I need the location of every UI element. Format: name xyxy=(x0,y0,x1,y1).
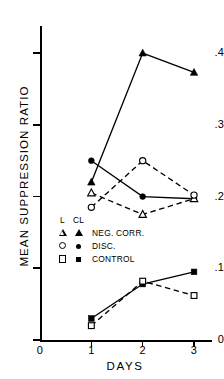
square-filled-icon xyxy=(76,257,82,263)
data-point-marker xyxy=(191,269,197,275)
data-point-marker xyxy=(88,158,94,164)
chart-legend: LCLNEG. CORR.DISC.CONTROL xyxy=(56,214,147,268)
data-point-marker xyxy=(140,194,146,200)
suppression-ratio-chart: 0.1.2.3.4 0123 MEAN SUPPRESSION RATIO DA… xyxy=(0,0,224,379)
series-0 xyxy=(88,49,198,185)
data-point-marker xyxy=(191,293,197,299)
series-2 xyxy=(89,269,197,321)
data-point-marker xyxy=(89,316,95,322)
legend-label: DISC. xyxy=(88,241,147,254)
plot-area xyxy=(0,0,224,379)
legend-header-row: LCL xyxy=(56,214,147,227)
data-point-marker xyxy=(191,192,197,198)
circle-filled-icon xyxy=(76,244,81,249)
legend-header-l: L xyxy=(56,214,72,227)
series-line xyxy=(91,161,194,208)
data-point-marker xyxy=(140,158,146,164)
legend-symbol-square-open xyxy=(56,254,72,267)
circle-open-icon xyxy=(59,242,66,249)
legend-symbol-triangle-open xyxy=(56,227,72,240)
triangle-open-icon xyxy=(59,229,67,236)
triangle-filled-icon xyxy=(75,229,83,236)
series-line xyxy=(91,281,194,325)
legend-label: NEG. CORR. xyxy=(88,227,147,240)
data-point-marker xyxy=(140,278,146,284)
square-open-icon xyxy=(59,255,66,262)
data-point-marker xyxy=(139,49,146,56)
data-point-marker xyxy=(88,323,94,329)
data-point-marker xyxy=(88,189,95,196)
legend-row: CONTROL xyxy=(56,254,147,267)
legend-symbol-square-filled xyxy=(72,254,88,267)
data-point-marker xyxy=(88,178,95,185)
legend-label: CONTROL xyxy=(88,254,147,267)
legend-row: DISC. xyxy=(56,241,147,254)
legend-table: LCLNEG. CORR.DISC.CONTROL xyxy=(56,214,147,268)
legend-symbol-circle-open xyxy=(56,241,72,254)
legend-header-cl: CL xyxy=(72,214,88,227)
data-point-marker xyxy=(88,204,94,210)
legend-symbol-triangle-filled xyxy=(72,227,88,240)
legend-symbol-circle-filled xyxy=(72,241,88,254)
legend-row: NEG. CORR. xyxy=(56,227,147,240)
legend-header-spacer xyxy=(88,214,147,227)
